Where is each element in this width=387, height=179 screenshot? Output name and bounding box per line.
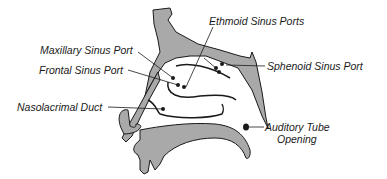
- nasal-cavity-illustration: [0, 0, 387, 179]
- ethmoid-port-dot-3: [217, 70, 221, 74]
- label-maxillary-sinus-port: Maxillary Sinus Port: [40, 44, 133, 56]
- label-auditory-opening: Opening: [277, 133, 317, 145]
- label-ethmoid-sinus-ports: Ethmoid Sinus Ports: [209, 15, 304, 27]
- sphenoid-port-dot: [220, 62, 224, 66]
- superior-turbinate: [176, 65, 230, 79]
- label-nasolacrimal-duct: Nasolacrimal Duct: [17, 101, 102, 113]
- auditory-tube-dot: [243, 124, 249, 131]
- label-auditory-tube: Auditory Tube: [265, 121, 330, 133]
- palate-shape: [134, 123, 250, 174]
- ethmoid-port-dot-1: [182, 85, 186, 89]
- label-frontal-sinus-port: Frontal Sinus Port: [39, 64, 123, 76]
- label-sphenoid-sinus-port: Sphenoid Sinus Port: [267, 60, 363, 72]
